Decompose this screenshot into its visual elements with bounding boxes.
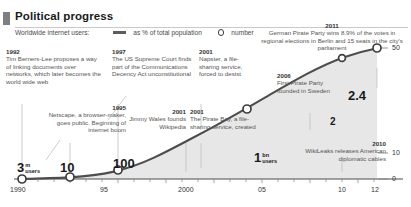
annotation-text: First Pirate Party founded in Sweden (277, 79, 330, 93)
annotation-year: 2001 (199, 48, 259, 55)
annotation-text: German Pirate Party wins 8.9% of the vot… (261, 29, 403, 51)
annotation-year: 2010 (288, 140, 386, 147)
annotation-year: 1995 (40, 104, 126, 111)
annotation-text: Tim Berners-Lee proposes a way of linkin… (6, 55, 101, 84)
marker-2010 (339, 55, 346, 62)
value-unit: musers (25, 163, 40, 174)
y-tick-0: 0 (392, 175, 396, 182)
value-label-2010: 2 (330, 116, 336, 127)
annotation-2011: 2011 German Pirate Party wins 8.9% of th… (258, 22, 406, 52)
annotation-2001-napster: 2001 Napster, a file-sharing service, fo… (199, 48, 259, 78)
annotation-year: 2011 (258, 22, 406, 29)
x-tick-95: 95 (100, 186, 108, 193)
annotation-text: The Pirate Bay, a file-sharing service, … (190, 115, 256, 129)
annotation-text: Jimmy Wales founds Wikipedia (129, 115, 186, 129)
annotation-2001-wikipedia: 2001 Jimmy Wales founds Wikipedia (120, 108, 186, 130)
value-label-2012: 2.4 (348, 88, 366, 103)
y-tick-10: 10 (392, 149, 400, 156)
annotation-year: 2006 (277, 72, 347, 79)
annotation-2010: 2010 WikiLeaks releases American diploma… (288, 140, 386, 162)
value-label-1996: 100 (113, 156, 135, 171)
annotation-text: Napster, a file-sharing service, forced … (199, 55, 242, 77)
marker-1990 (18, 175, 26, 183)
value-unit: bnusers (262, 153, 277, 164)
x-tick-1990: 1990 (10, 186, 26, 193)
annotation-text: The US Supreme Court finds part of the C… (112, 55, 191, 77)
annotation-1997: 1997 The US Supreme Court finds part of … (112, 48, 198, 78)
y-tick-50: 50 (392, 44, 400, 51)
annotation-2001-pirate-bay: 2001 The Pirate Bay, a file-sharing serv… (190, 108, 258, 130)
annotation-year: 2001 (190, 108, 258, 115)
infographic-root: Political progress Worldwide internet us… (0, 0, 411, 207)
annotation-1995: 1995 Netscape, a browser-maker, goes pub… (40, 104, 126, 134)
annotation-text: WikiLeaks releases American diplomatic c… (305, 147, 386, 161)
annotation-text: Netscape, a browser-maker, goes public. … (49, 111, 126, 133)
value-number: 1 (254, 150, 261, 165)
x-tick-12: 12 (371, 186, 379, 193)
value-label-1993: 10 (60, 160, 74, 175)
annotation-2006: 2006 First Pirate Party founded in Swede… (277, 72, 347, 94)
x-axis-minor-ticks (22, 179, 374, 183)
annotation-year: 1997 (112, 48, 198, 55)
annotation-year: 2001 (120, 108, 186, 115)
annotation-year: 1992 (6, 48, 102, 55)
annotation-1992: 1992 Tim Berners-Lee proposes a way of l… (6, 48, 102, 85)
value-label-1990: 3musers (17, 160, 40, 175)
x-tick-05: 05 (258, 186, 266, 193)
value-number: 3 (17, 160, 24, 175)
value-label-2005: 1bnusers (254, 150, 277, 165)
x-tick-2000: 2000 (178, 186, 194, 193)
x-tick-10: 10 (338, 186, 346, 193)
